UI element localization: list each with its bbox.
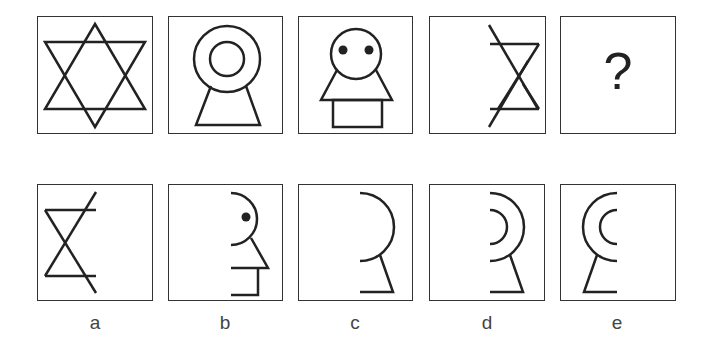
star-of-david-icon [38, 17, 154, 135]
half-star-left-icon [38, 185, 154, 302]
option-c[interactable] [298, 184, 413, 301]
face-figure-icon [299, 17, 414, 135]
sequence-panel-5: ? [560, 16, 676, 134]
option-e-label: e [597, 312, 637, 334]
sequence-panel-1 [37, 16, 153, 134]
option-a[interactable] [37, 184, 153, 301]
half-concentric-circles-right-icon [430, 185, 546, 302]
half-concentric-circles-left-icon [561, 185, 677, 302]
option-b[interactable] [168, 184, 283, 301]
option-e[interactable] [560, 184, 676, 301]
half-circle-on-leg-icon [299, 185, 414, 302]
half-star-right-icon [430, 17, 547, 135]
question-mark: ? [561, 41, 675, 101]
option-d-label: d [467, 312, 507, 334]
sequence-panel-2 [168, 16, 283, 134]
half-face-profile-icon [169, 185, 284, 302]
sequence-panel-4 [429, 16, 546, 134]
option-b-label: b [205, 312, 245, 334]
option-a-label: a [75, 312, 115, 334]
sequence-panel-3 [298, 16, 413, 134]
option-d[interactable] [429, 184, 545, 301]
concentric-circles-trapezoid-icon [169, 17, 284, 135]
option-c-label: c [335, 312, 375, 334]
